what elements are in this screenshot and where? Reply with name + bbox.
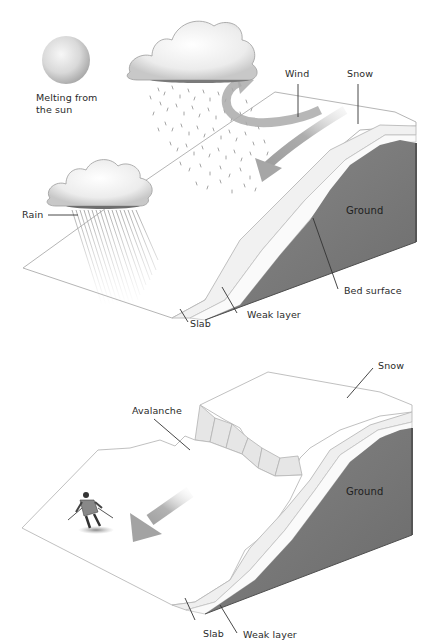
label-ground: Ground [346,205,383,217]
rain-cloud [47,160,152,209]
label-snow: Snow [347,68,373,80]
panel-before-avalanche: Melting from the sun Wind Snow Rain Grou… [0,0,427,330]
label-sun-line2: the sun [36,104,97,116]
snow-cloud [127,21,257,83]
sun-icon [42,36,90,84]
label-snow: Snow [378,360,404,372]
label-slab: Slab [203,628,224,640]
label-bed-surface: Bed surface [344,285,402,297]
label-sun: Melting from the sun [36,92,97,116]
top-illustration [0,0,427,330]
panel-after-avalanche: Snow Avalanche Ground Weak layer Slab [0,330,427,640]
label-avalanche: Avalanche [132,405,182,417]
bottom-illustration [0,330,427,640]
label-slab: Slab [190,318,211,330]
label-sun-line1: Melting from [36,92,97,104]
label-wind: Wind [285,68,309,80]
label-weak-layer: Weak layer [243,629,297,640]
label-weak-layer: Weak layer [247,309,301,321]
label-ground: Ground [346,486,383,498]
label-rain: Rain [22,209,43,221]
